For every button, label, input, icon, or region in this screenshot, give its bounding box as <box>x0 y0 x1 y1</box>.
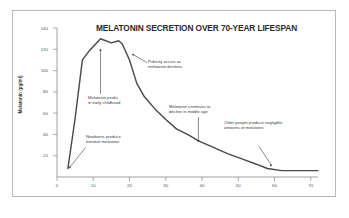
x-tick-label-20: 20 <box>123 183 137 188</box>
leader-newborns <box>70 148 86 168</box>
y-tick-label-80: 80 <box>34 89 48 94</box>
y-tick-label-20: 20 <box>34 153 48 158</box>
annotation-peak: Melatonin peaks in early childhood <box>88 95 148 105</box>
leader-puberty <box>133 55 147 63</box>
annotation-newborns: Newborns produce minimal melatonin <box>86 134 146 144</box>
marker-older <box>270 164 272 166</box>
x-tick-label-10: 10 <box>86 183 100 188</box>
x-tick-label-0: 0 <box>50 183 64 188</box>
annotation-middle-age: Melatonin continues to decline in middle… <box>169 104 241 114</box>
marker-peak <box>100 49 102 51</box>
x-tick-label-50: 50 <box>231 183 245 188</box>
marker-middle-age <box>197 140 199 142</box>
x-tick-label-30: 30 <box>159 183 173 188</box>
y-axis-ticks <box>53 28 57 156</box>
y-tick-label-40: 40 <box>34 132 48 137</box>
x-tick-label-40: 40 <box>195 183 209 188</box>
y-tick-label-60: 60 <box>34 111 48 116</box>
annotation-puberty: Puberty occurs as melatonin declines <box>148 59 210 69</box>
y-tick-label-120: 120 <box>34 47 48 52</box>
leader-older <box>259 147 271 165</box>
annotation-older: Older people produce negligible amounts … <box>224 120 314 130</box>
chart-figure: MELATONIN SECRETION OVER 70-YEAR LIFESPA… <box>0 0 349 218</box>
x-tick-label-60: 60 <box>268 183 282 188</box>
x-tick-label-70: 70 <box>304 183 318 188</box>
y-tick-label-100: 100 <box>34 68 48 73</box>
x-axis-ticks <box>57 177 311 181</box>
y-tick-label-140: 140 <box>34 26 48 31</box>
